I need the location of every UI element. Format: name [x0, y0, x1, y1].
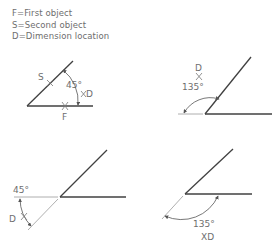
second-object-label: S	[38, 72, 44, 82]
dimension-location-marker	[196, 73, 202, 80]
angle-label: 135°	[182, 82, 204, 92]
dimension-arc	[20, 199, 31, 226]
angular-dimension-diagrams: S F 45° D D 135° 45° D	[0, 0, 279, 243]
angle-label: 45°	[13, 185, 29, 195]
first-object-label: F	[62, 112, 67, 122]
dimension-location-label: D	[9, 214, 16, 224]
dimension-location-marker	[21, 213, 27, 220]
dimension-location-label: D	[86, 89, 93, 99]
second-object-line	[205, 57, 251, 114]
diagram-top-right: D 135°	[178, 57, 272, 114]
extension-line	[162, 196, 183, 219]
extension-line-diagonal	[28, 199, 58, 230]
dimension-location-label: D	[195, 63, 202, 73]
dimension-location-label: XD	[201, 232, 214, 242]
second-object-marker	[47, 80, 53, 86]
diagram-bottom-left: 45° D	[9, 150, 126, 230]
second-object-line	[185, 149, 233, 194]
angle-label: 135°	[193, 219, 215, 229]
dimension-arc	[165, 196, 218, 220]
diagram-top-left: S F 45° D	[27, 61, 93, 122]
diagram-bottom-right: 135° XD	[162, 149, 252, 242]
second-object-line	[60, 150, 107, 197]
angle-label: 45°	[66, 80, 82, 90]
dimension-arc	[184, 98, 219, 113]
